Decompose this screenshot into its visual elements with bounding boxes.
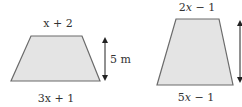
left-bottom-label: 3x + 1 — [38, 92, 74, 105]
right-trapezoid: 2x − 1 5x − 1 — [157, 1, 240, 104]
trapezoids-diagram: x + 2 3x + 1 5 m 2x − 1 5x − 1 — [0, 0, 242, 107]
left-top-label: x + 2 — [43, 17, 72, 30]
left-height-label: 5 m — [110, 53, 131, 66]
right-trapezoid-shape — [157, 19, 233, 85]
left-trapezoid-shape — [11, 36, 100, 81]
right-top-label: 2x − 1 — [179, 1, 215, 14]
right-bottom-label: 5x − 1 — [178, 91, 214, 104]
left-trapezoid: x + 2 3x + 1 5 m — [11, 17, 131, 105]
